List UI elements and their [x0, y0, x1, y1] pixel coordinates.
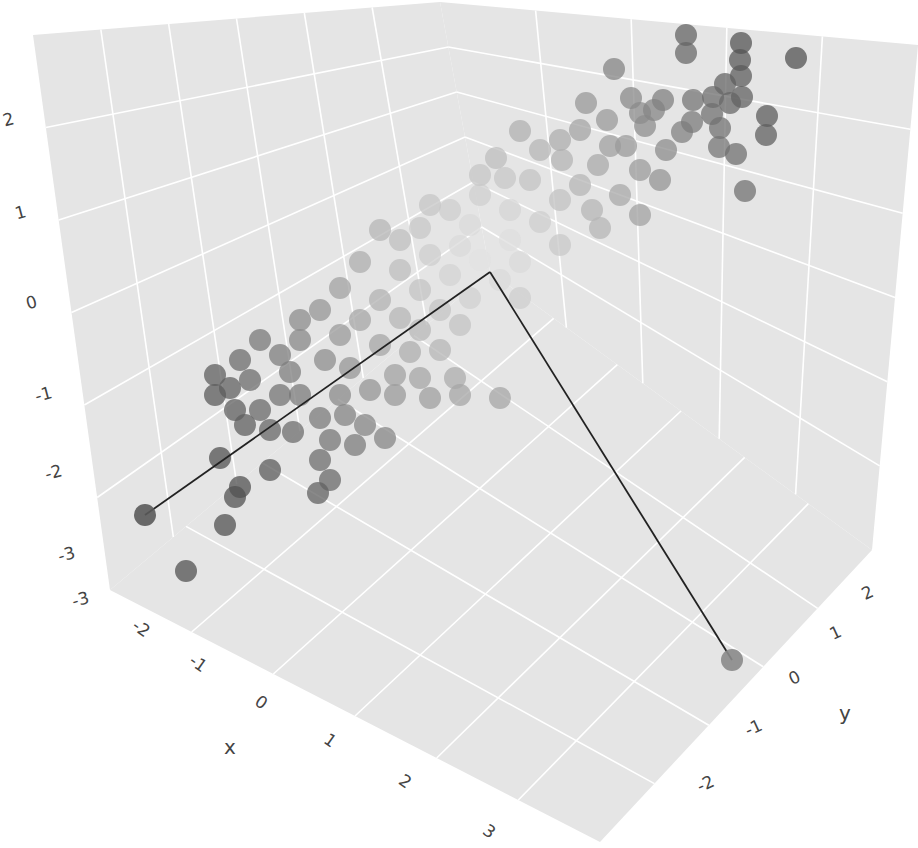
- data-point[interactable]: [655, 139, 677, 161]
- data-point[interactable]: [259, 459, 281, 481]
- data-point[interactable]: [204, 384, 226, 406]
- data-point[interactable]: [354, 414, 376, 436]
- data-point[interactable]: [334, 404, 356, 426]
- data-point[interactable]: [459, 287, 481, 309]
- data-point[interactable]: [269, 344, 291, 366]
- data-point[interactable]: [603, 58, 625, 80]
- data-point[interactable]: [239, 369, 261, 391]
- data-point[interactable]: [249, 329, 271, 351]
- data-point[interactable]: [575, 92, 597, 114]
- data-point[interactable]: [652, 89, 674, 111]
- outlier-point[interactable]: [134, 504, 156, 526]
- data-point[interactable]: [629, 159, 651, 181]
- data-point[interactable]: [551, 149, 573, 171]
- data-point[interactable]: [649, 169, 671, 191]
- data-point[interactable]: [224, 486, 246, 508]
- outlier-point[interactable]: [721, 649, 743, 671]
- data-point[interactable]: [234, 414, 256, 436]
- data-point[interactable]: [499, 229, 521, 251]
- data-point[interactable]: [309, 407, 331, 429]
- data-point[interactable]: [529, 139, 551, 161]
- data-point[interactable]: [785, 47, 807, 69]
- data-point[interactable]: [369, 289, 391, 311]
- data-point[interactable]: [269, 384, 291, 406]
- data-point[interactable]: [314, 349, 336, 371]
- data-point[interactable]: [175, 560, 197, 582]
- data-point[interactable]: [509, 120, 531, 142]
- data-point[interactable]: [469, 164, 491, 186]
- data-point[interactable]: [384, 364, 406, 386]
- data-point[interactable]: [439, 199, 461, 221]
- data-point[interactable]: [449, 235, 471, 257]
- data-point[interactable]: [419, 194, 441, 216]
- data-point[interactable]: [329, 324, 351, 346]
- data-point[interactable]: [349, 251, 371, 273]
- data-point[interactable]: [615, 135, 637, 157]
- scatter3d-plot[interactable]: 210-1-2-3-3-2-10123210-1-2xy: [0, 0, 918, 848]
- data-point[interactable]: [319, 429, 341, 451]
- data-point[interactable]: [229, 349, 251, 371]
- data-point[interactable]: [609, 184, 631, 206]
- data-point[interactable]: [587, 154, 609, 176]
- data-point[interactable]: [469, 184, 491, 206]
- data-point[interactable]: [569, 119, 591, 141]
- data-point[interactable]: [439, 264, 461, 286]
- data-point[interactable]: [409, 217, 431, 239]
- data-point[interactable]: [204, 364, 226, 386]
- data-point[interactable]: [419, 387, 441, 409]
- data-point[interactable]: [569, 174, 591, 196]
- data-point[interactable]: [307, 482, 329, 504]
- data-point[interactable]: [499, 199, 521, 221]
- data-point[interactable]: [549, 189, 571, 211]
- data-point[interactable]: [734, 180, 756, 202]
- data-point[interactable]: [374, 427, 396, 449]
- data-point[interactable]: [509, 251, 531, 273]
- data-point[interactable]: [369, 219, 391, 241]
- data-point[interactable]: [344, 434, 366, 456]
- data-point[interactable]: [681, 111, 703, 133]
- data-point[interactable]: [489, 387, 511, 409]
- data-point[interactable]: [449, 384, 471, 406]
- data-point[interactable]: [529, 211, 551, 233]
- data-point[interactable]: [596, 109, 618, 131]
- data-point[interactable]: [209, 447, 231, 469]
- data-point[interactable]: [730, 32, 752, 54]
- data-point[interactable]: [509, 287, 531, 309]
- data-point[interactable]: [589, 217, 611, 239]
- data-point[interactable]: [282, 421, 304, 443]
- data-point[interactable]: [359, 379, 381, 401]
- data-point[interactable]: [755, 124, 777, 146]
- data-point[interactable]: [549, 234, 571, 256]
- data-point[interactable]: [329, 384, 351, 406]
- data-point[interactable]: [709, 117, 731, 139]
- data-point[interactable]: [309, 299, 331, 321]
- data-point[interactable]: [329, 277, 351, 299]
- data-point[interactable]: [519, 169, 541, 191]
- data-point[interactable]: [731, 86, 753, 108]
- data-point[interactable]: [384, 384, 406, 406]
- data-point[interactable]: [485, 147, 507, 169]
- data-point[interactable]: [494, 167, 516, 189]
- data-point[interactable]: [459, 214, 481, 236]
- data-point[interactable]: [756, 105, 778, 127]
- data-point[interactable]: [682, 89, 704, 111]
- data-point[interactable]: [429, 339, 451, 361]
- data-point[interactable]: [549, 129, 571, 151]
- data-point[interactable]: [389, 259, 411, 281]
- data-point[interactable]: [620, 87, 642, 109]
- data-point[interactable]: [449, 314, 471, 336]
- data-point[interactable]: [419, 244, 441, 266]
- data-point[interactable]: [214, 514, 236, 536]
- data-point[interactable]: [675, 24, 697, 46]
- data-point[interactable]: [289, 329, 311, 351]
- data-point[interactable]: [289, 309, 311, 331]
- data-point[interactable]: [629, 204, 651, 226]
- data-point[interactable]: [309, 449, 331, 471]
- data-point[interactable]: [409, 279, 431, 301]
- data-point[interactable]: [469, 249, 491, 271]
- data-point[interactable]: [289, 384, 311, 406]
- data-point[interactable]: [389, 229, 411, 251]
- data-point[interactable]: [349, 309, 371, 331]
- data-point[interactable]: [389, 307, 411, 329]
- data-point[interactable]: [725, 143, 747, 165]
